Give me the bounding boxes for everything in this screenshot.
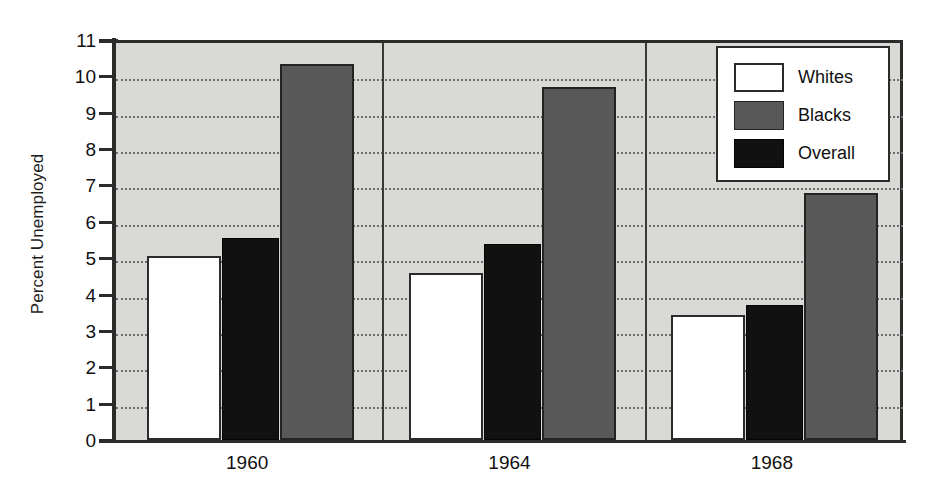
y-tick-label-2: 2 bbox=[46, 358, 96, 377]
y-tick-mark-8 bbox=[99, 148, 117, 151]
legend-item-overall: Overall bbox=[734, 134, 888, 172]
y-tick-mark-10 bbox=[99, 75, 117, 78]
y-axis-tick-labels: 01234567891011 bbox=[46, 40, 96, 440]
x-tick-label-1964: 1964 bbox=[430, 452, 590, 474]
legend-swatch-blacks bbox=[734, 101, 784, 130]
x-tick-label-1968: 1968 bbox=[692, 452, 852, 474]
legend-item-whites: Whites bbox=[734, 58, 888, 96]
y-tick-mark-9 bbox=[99, 112, 117, 115]
y-tick-label-0: 0 bbox=[46, 431, 96, 450]
y-tick-mark-6 bbox=[99, 221, 117, 224]
bar-1960-overall bbox=[222, 238, 279, 440]
bar-1960-blacks bbox=[280, 64, 354, 440]
y-tick-label-6: 6 bbox=[46, 212, 96, 231]
y-tick-label-3: 3 bbox=[46, 321, 96, 340]
bar-1968-whites bbox=[671, 315, 745, 440]
bar-1968-overall bbox=[746, 305, 803, 440]
legend-item-blacks: Blacks bbox=[734, 96, 888, 134]
y-tick-label-4: 4 bbox=[46, 285, 96, 304]
legend-swatch-overall bbox=[734, 139, 784, 168]
bar-1964-whites bbox=[409, 273, 483, 440]
x-tick-label-1960: 1960 bbox=[167, 452, 327, 474]
legend-swatch-whites bbox=[734, 63, 784, 92]
y-tick-label-5: 5 bbox=[46, 249, 96, 268]
bar-1968-blacks bbox=[804, 193, 878, 440]
y-axis-title: Percent Unemployed bbox=[28, 104, 48, 364]
y-tick-label-11: 11 bbox=[46, 31, 96, 50]
legend-label-blacks: Blacks bbox=[798, 105, 851, 126]
y-tick-label-10: 10 bbox=[46, 67, 96, 86]
y-tick-mark-4 bbox=[99, 294, 117, 297]
y-tick-mark-7 bbox=[99, 184, 117, 187]
gridline-7 bbox=[116, 188, 903, 190]
y-tick-label-9: 9 bbox=[46, 103, 96, 122]
chart-legend: WhitesBlacksOverall bbox=[716, 46, 890, 182]
legend-label-whites: Whites bbox=[798, 67, 853, 88]
bar-1960-whites bbox=[147, 256, 221, 440]
gridline-6 bbox=[116, 225, 903, 227]
group-separator-1 bbox=[382, 43, 384, 443]
y-tick-label-1: 1 bbox=[46, 394, 96, 413]
legend-label-overall: Overall bbox=[798, 143, 855, 164]
bar-1964-overall bbox=[484, 244, 541, 440]
y-tick-label-8: 8 bbox=[46, 140, 96, 159]
bar-1964-blacks bbox=[542, 87, 616, 440]
unemployment-bar-chart: Percent Unemployed 01234567891011 196019… bbox=[0, 0, 934, 500]
y-tick-label-7: 7 bbox=[46, 176, 96, 195]
y-tick-mark-3 bbox=[99, 330, 117, 333]
y-tick-mark-5 bbox=[99, 257, 117, 260]
legend-rows: WhitesBlacksOverall bbox=[734, 58, 888, 172]
y-tick-mark-1 bbox=[99, 403, 117, 406]
y-tick-mark-2 bbox=[99, 366, 117, 369]
group-separator-2 bbox=[645, 43, 647, 443]
x-axis-spine bbox=[101, 440, 906, 443]
